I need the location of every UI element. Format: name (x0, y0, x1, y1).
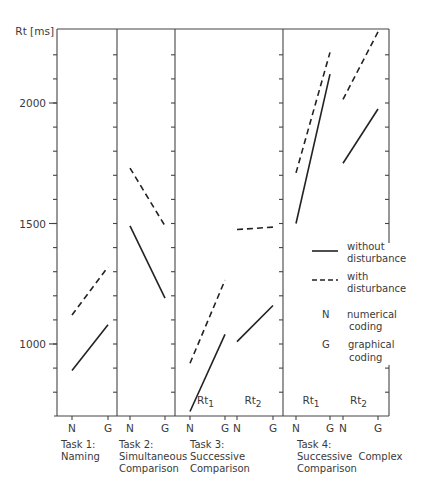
legend-solid-label-2: disturbance (347, 253, 406, 264)
subgroup-label: Rt2 (244, 394, 261, 409)
legend-g-label-2: coding (349, 352, 382, 363)
task-name-label: Comparison (190, 463, 250, 474)
y-tick-label: 2000 (19, 97, 46, 109)
task-name-label: Comparison (297, 463, 357, 474)
series-without-disturbance (296, 74, 330, 223)
series-with-disturbance (130, 168, 165, 226)
x-tick-label: N (126, 422, 134, 434)
series-without-disturbance (130, 226, 165, 298)
data-series: Rt1Rt2Rt1Rt2 (72, 32, 378, 412)
task-name-label: Comparison (119, 463, 179, 474)
legend-dashed-label-1: with (347, 271, 368, 282)
legend-n-symbol: N (322, 309, 329, 320)
series-with-disturbance (296, 52, 330, 173)
series-with-disturbance (190, 280, 225, 363)
task-name-label: Successive (190, 451, 245, 462)
x-tick-label: G (161, 422, 169, 434)
subgroup-label: Rt1 (302, 394, 319, 409)
x-tick-label: N (292, 422, 300, 434)
subgroup-label: Rt1 (197, 394, 214, 409)
task-number-label: Task 1: (60, 439, 96, 450)
x-tick-label: G (326, 422, 334, 434)
legend-n-label-1: numerical (347, 309, 397, 320)
x-tick-label: G (221, 422, 229, 434)
task-number-label: Task 4: (296, 439, 332, 450)
subgroup-label: Rt2 (350, 394, 367, 409)
chart-frame (53, 29, 389, 416)
x-tick-label: N (233, 422, 241, 434)
legend-solid-label-1: without (347, 241, 385, 252)
y-axis: Rt [ms] 100015002000 (15, 25, 57, 350)
x-tick-label: N (339, 422, 347, 434)
task-number-label: Task 2: (118, 439, 154, 450)
x-tick-label: G (104, 422, 112, 434)
legend-n-label-2: coding (349, 321, 382, 332)
x-axis: NGNGNGNGNGNG (68, 416, 382, 434)
x-tick-label: N (68, 422, 76, 434)
reaction-time-chart: Rt [ms] 100015002000 Rt1Rt2Rt1Rt2 NGNGNG… (0, 0, 425, 495)
task-labels: Task 1:NamingTask 2:SimultaneousComparis… (60, 439, 402, 474)
task-name-label: Simultaneous (119, 451, 187, 462)
task-number-label: Task 3: (189, 439, 225, 450)
task-name-label: Successive Complex (297, 451, 402, 462)
series-with-disturbance (343, 32, 378, 99)
legend-g-symbol: G (322, 339, 330, 350)
task-name-label: Naming (61, 451, 100, 462)
series-without-disturbance (237, 305, 273, 341)
y-tick-label: 1500 (19, 218, 46, 230)
legend: without disturbance with disturbance N n… (312, 241, 406, 363)
legend-dashed-label-2: disturbance (347, 283, 406, 294)
x-tick-label: G (269, 422, 277, 434)
x-tick-label: G (374, 422, 382, 434)
y-tick-label: 1000 (19, 338, 46, 350)
series-with-disturbance (237, 227, 273, 229)
series-with-disturbance (72, 267, 108, 315)
series-without-disturbance (72, 325, 108, 371)
y-axis-title: Rt [ms] (15, 25, 54, 37)
series-without-disturbance (343, 109, 378, 163)
legend-g-label-1: graphical (348, 339, 394, 350)
x-tick-label: N (186, 422, 194, 434)
